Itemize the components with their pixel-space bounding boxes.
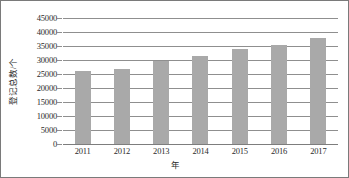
bar-slot <box>102 18 141 144</box>
y-axis-tick-mark <box>57 116 62 117</box>
x-axis-line <box>63 144 338 145</box>
y-axis-tick-mark <box>57 18 62 19</box>
y-axis-tick-label: 15000 <box>37 98 57 107</box>
bar <box>192 56 208 144</box>
y-axis-tick-mark <box>57 60 62 61</box>
x-axis-tick-label: 2016 <box>271 147 287 156</box>
y-axis-tick-mark <box>57 32 62 33</box>
bar-slot <box>220 18 259 144</box>
bar-slot <box>181 18 220 144</box>
bar-slot <box>63 18 102 144</box>
y-axis-tick-label: 35000 <box>37 42 57 51</box>
y-axis-tick-label: 45000 <box>37 14 57 23</box>
y-axis-tick-mark <box>57 130 62 131</box>
y-axis-tick-label: 5000 <box>41 126 57 135</box>
y-axis-tick-mark <box>57 102 62 103</box>
x-axis-tick-label: 2015 <box>232 147 248 156</box>
x-axis-tick-label: 2017 <box>310 147 326 156</box>
y-axis-tick-mark <box>57 74 62 75</box>
y-axis-title: 登记总数/个 <box>7 18 21 144</box>
bar <box>153 61 169 144</box>
bar-chart-figure: 0500010000150002000025000300003500040000… <box>0 0 349 178</box>
bar <box>75 71 91 144</box>
y-axis-tick-mark <box>57 88 62 89</box>
x-axis-tick-label: 2011 <box>75 147 91 156</box>
bar <box>114 69 130 144</box>
plot-area <box>63 18 338 144</box>
x-axis-tick-label: 2012 <box>114 147 130 156</box>
y-axis-tick-mark <box>57 46 62 47</box>
y-axis-tick-label: 40000 <box>37 28 57 37</box>
x-axis-title: 年 <box>1 161 349 170</box>
x-axis-tick-label: 2013 <box>153 147 169 156</box>
bar <box>310 38 326 144</box>
x-axis-title-text: 年 <box>171 160 180 170</box>
y-axis-tick-label: 10000 <box>37 112 57 121</box>
bar-slot <box>299 18 338 144</box>
bar-slot <box>259 18 298 144</box>
y-axis-tick-mark <box>57 144 62 145</box>
bar-slot <box>142 18 181 144</box>
x-axis-tick-label: 2014 <box>192 147 208 156</box>
x-axis-tick-labels: 2011201220132014201520162017 <box>63 147 338 161</box>
y-axis-tick-label: 25000 <box>37 70 57 79</box>
y-axis-tick-label: 30000 <box>37 56 57 65</box>
y-axis-title-text: 登记总数/个 <box>10 57 19 104</box>
y-axis-tick-label: 20000 <box>37 84 57 93</box>
bar <box>271 45 287 144</box>
bar-series <box>63 18 338 144</box>
bar <box>232 49 248 144</box>
